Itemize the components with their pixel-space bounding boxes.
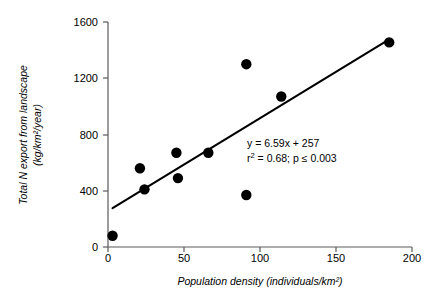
data-point [107,231,117,241]
data-point [276,91,286,101]
x-tick-label-200: 200 [403,252,421,264]
plot-canvas [0,0,431,298]
y-axis-ticks [103,22,108,247]
x-tick-label-50: 50 [178,252,190,264]
y-tick-label-400: 400 [72,185,98,197]
x-axis-title: Population density (individuals/km²) [177,275,342,287]
data-point [384,37,394,47]
y-tick-label-1600: 1600 [72,16,98,28]
y-tick-label-0: 0 [72,241,98,253]
data-point [241,190,251,200]
y-axis-title-line2: (kg/km²/year) [30,65,44,205]
y-axis-title: Total N export from landscape (kg/km²/ye… [16,65,44,205]
x-tick-label-0: 0 [105,252,111,264]
data-point [203,148,213,158]
x-tick-label-150: 150 [327,252,345,264]
regression-stats: r2 = 0.68; p ≤ 0.003 [247,151,337,166]
data-point [241,59,251,69]
y-tick-label-800: 800 [72,129,98,141]
data-point [173,173,183,183]
scatter-plot-figure: 0 50 100 150 200 0 400 800 1200 1600 Pop… [0,0,431,298]
data-point [139,184,149,194]
data-point [171,148,181,158]
regression-annotation: y = 6.59x + 257 r2 = 0.68; p ≤ 0.003 [247,136,337,166]
data-point [135,163,145,173]
regression-equation: y = 6.59x + 257 [247,136,337,151]
y-axis-title-line1: Total N export from landscape [17,65,29,205]
stats-rest: = 0.68; p ≤ 0.003 [255,152,337,164]
x-tick-label-100: 100 [251,252,269,264]
axes [108,22,412,247]
y-tick-label-1200: 1200 [72,72,98,84]
